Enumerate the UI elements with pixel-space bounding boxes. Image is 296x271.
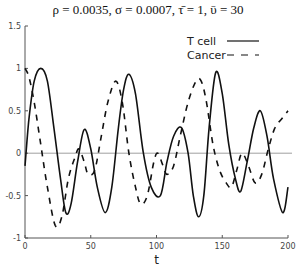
x-tick-label: 200 — [280, 242, 295, 251]
x-tick-label: 100 — [149, 242, 164, 251]
x-axis-label: t — [154, 253, 159, 267]
y-tick-label: 0 — [16, 149, 21, 158]
legend-label-t-cell: T cell — [186, 35, 216, 48]
line-chart: -1-0.500.511.5050100150200t T cellCancer — [0, 0, 296, 271]
plot-area — [25, 68, 288, 227]
y-tick-label: -0.5 — [5, 192, 21, 201]
axes: -1-0.500.511.5050100150200t — [5, 22, 295, 267]
legend-label-cancer: Cancer — [187, 49, 226, 62]
y-tick-label: -1 — [13, 234, 21, 243]
x-tick-label: 150 — [215, 242, 230, 251]
series-t-cell — [25, 68, 288, 216]
legend: T cellCancer — [186, 35, 259, 62]
x-tick-label: 0 — [22, 242, 27, 251]
y-tick-label: 1.5 — [8, 22, 21, 31]
y-tick-label: 1 — [16, 64, 21, 73]
y-tick-label: 0.5 — [8, 107, 21, 116]
x-tick-label: 50 — [86, 242, 96, 251]
